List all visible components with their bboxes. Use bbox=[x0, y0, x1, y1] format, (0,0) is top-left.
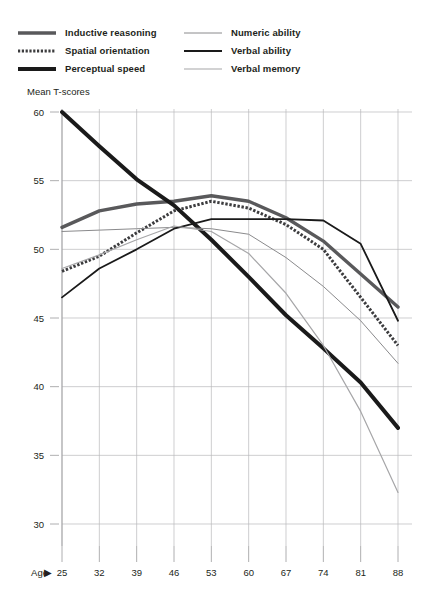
series-line-perceptual-speed bbox=[62, 112, 398, 428]
x-tick-label: 81 bbox=[355, 567, 366, 578]
y-tick-label: 60 bbox=[33, 107, 44, 118]
y-tick-label: 40 bbox=[33, 381, 44, 392]
axis-labels-group: 6055504540353025323946536067748188Age▶ bbox=[31, 107, 403, 579]
x-tick-label: 60 bbox=[243, 567, 254, 578]
x-tick-label: 32 bbox=[94, 567, 105, 578]
series-line-spatial-orientation bbox=[62, 201, 398, 345]
x-tick-label: 46 bbox=[169, 567, 180, 578]
x-tick-label: 39 bbox=[131, 567, 142, 578]
x-tick-label: 88 bbox=[393, 567, 404, 578]
series-line-numeric-ability bbox=[62, 227, 398, 363]
series-line-verbal-ability bbox=[62, 219, 398, 321]
y-tick-label: 30 bbox=[33, 519, 44, 530]
y-tick-label: 55 bbox=[33, 175, 44, 186]
x-tick-label: 53 bbox=[206, 567, 217, 578]
y-tick-label: 45 bbox=[33, 313, 44, 324]
y-tick-label: 35 bbox=[33, 450, 44, 461]
gridlines-group bbox=[62, 109, 412, 546]
x-axis-arrow-icon: ▶ bbox=[44, 567, 52, 578]
x-tick-label: 74 bbox=[318, 567, 329, 578]
x-tick-label: 67 bbox=[281, 567, 292, 578]
x-tick-label: 25 bbox=[57, 567, 68, 578]
chart-container: Inductive reasoningSpatial orientationPe… bbox=[0, 0, 436, 609]
series-group bbox=[62, 112, 398, 492]
tickmarks-group bbox=[50, 112, 398, 562]
y-tick-label: 50 bbox=[33, 244, 44, 255]
series-line-inductive-reasoning bbox=[62, 196, 398, 307]
plot-area: 6055504540353025323946536067748188Age▶ bbox=[0, 0, 436, 609]
series-line-verbal-memory bbox=[62, 226, 398, 492]
